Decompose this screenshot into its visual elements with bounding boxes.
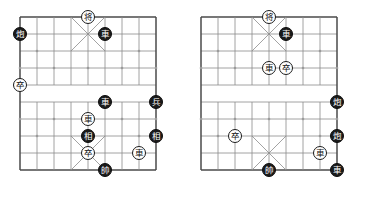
xiangqi-diagram-pair: 将炮車卒車兵車相相卒車帥将車車卒炮炮卒車帥車: [0, 0, 366, 215]
piece-glyph: 卒: [84, 148, 93, 157]
piece-glyph: 兵: [152, 97, 161, 106]
piece-elephant-black[interactable]: 相: [81, 129, 95, 143]
piece-chariot-white[interactable]: 車: [262, 61, 276, 75]
piece-glyph: 卒: [282, 63, 291, 72]
piece-glyph: 車: [265, 63, 274, 72]
piece-glyph: 将: [84, 12, 93, 21]
piece-cannon-black[interactable]: 炮: [330, 95, 344, 109]
piece-glyph: 卒: [16, 80, 25, 89]
piece-chariot-black[interactable]: 車: [98, 95, 112, 109]
piece-general-white[interactable]: 将: [81, 10, 95, 24]
piece-soldier-black[interactable]: 兵: [149, 95, 163, 109]
piece-elephant-black[interactable]: 相: [149, 129, 163, 143]
piece-glyph: 車: [135, 148, 144, 157]
piece-chariot-black[interactable]: 車: [279, 27, 293, 41]
piece-chariot-white[interactable]: 車: [313, 146, 327, 160]
piece-glyph: 車: [282, 29, 291, 38]
piece-pawn-white[interactable]: 卒: [228, 129, 242, 143]
left-board: 将炮車卒車兵車相相卒車帥: [11, 8, 165, 179]
piece-glyph: 炮: [333, 97, 342, 106]
piece-chariot-black[interactable]: 車: [330, 163, 344, 177]
piece-glyph: 帥: [265, 165, 274, 174]
piece-cannon-black[interactable]: 炮: [330, 129, 344, 143]
piece-marshal-black[interactable]: 帥: [98, 163, 112, 177]
piece-glyph: 将: [265, 12, 274, 21]
piece-pawn-white[interactable]: 卒: [13, 78, 27, 92]
piece-glyph: 相: [84, 131, 93, 140]
piece-chariot-white[interactable]: 車: [81, 112, 95, 126]
right-board: 将車車卒炮炮卒車帥車: [192, 8, 346, 179]
piece-chariot-white[interactable]: 車: [132, 146, 146, 160]
piece-glyph: 車: [316, 148, 325, 157]
piece-glyph: 車: [84, 114, 93, 123]
piece-glyph: 炮: [16, 29, 25, 38]
piece-glyph: 車: [101, 29, 110, 38]
piece-glyph: 炮: [333, 131, 342, 140]
piece-general-white[interactable]: 将: [262, 10, 276, 24]
piece-glyph: 帥: [101, 165, 110, 174]
piece-glyph: 卒: [231, 131, 240, 140]
piece-pawn-white[interactable]: 卒: [81, 146, 95, 160]
piece-cannon-black[interactable]: 炮: [13, 27, 27, 41]
piece-glyph: 相: [152, 131, 161, 140]
piece-marshal-black[interactable]: 帥: [262, 163, 276, 177]
piece-chariot-black[interactable]: 車: [98, 27, 112, 41]
piece-pawn-white[interactable]: 卒: [279, 61, 293, 75]
piece-glyph: 車: [333, 165, 342, 174]
piece-glyph: 車: [101, 97, 110, 106]
